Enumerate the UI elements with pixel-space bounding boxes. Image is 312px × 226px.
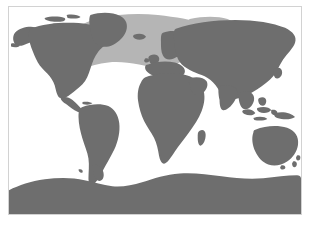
land-antarctica bbox=[9, 173, 301, 214]
world-distribution-figure bbox=[0, 0, 312, 226]
world-map-graphic bbox=[9, 7, 301, 214]
map-frame bbox=[8, 6, 302, 215]
